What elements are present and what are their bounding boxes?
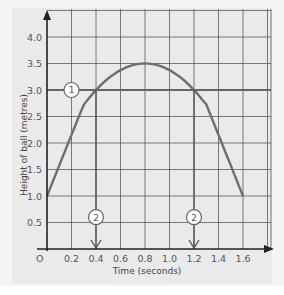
- y-tick-label: 3.0: [27, 85, 42, 96]
- step-marker-label: 2: [93, 213, 99, 223]
- x-tick-label: 1.2: [186, 253, 201, 264]
- y-tick-label: 0.5: [27, 217, 42, 228]
- y-tick-label: 1.0: [27, 191, 42, 202]
- step-marker-label: 1: [69, 85, 75, 95]
- x-axis-arrow-icon: [264, 245, 274, 253]
- y-tick-label: 3.5: [27, 58, 42, 69]
- x-tick-label: 1.0: [162, 253, 177, 264]
- y-tick-label: 2.0: [27, 138, 42, 149]
- x-axis-label: Time (seconds): [112, 266, 182, 276]
- y-tick-label: 1.5: [27, 164, 42, 175]
- x-tick-label: 0.2: [64, 253, 79, 264]
- x-tick-label: 1.4: [211, 253, 226, 264]
- grid-lines: [47, 9, 271, 249]
- height-time-chart: 0.20.40.60.81.01.21.41.60.51.01.52.02.53…: [0, 0, 284, 295]
- tick-labels: 0.20.40.60.81.01.21.41.60.51.01.52.02.53…: [27, 32, 251, 265]
- y-tick-label: 4.0: [27, 32, 42, 43]
- y-axis-arrow-icon: [43, 10, 51, 20]
- x-tick-label: 0.4: [88, 253, 103, 264]
- x-tick-label: 0.6: [113, 253, 128, 264]
- x-tick-label: 1.6: [235, 253, 250, 264]
- data-series: [47, 64, 271, 197]
- y-axis-label: Height of ball (metres): [19, 94, 29, 196]
- annotations: 122: [64, 83, 202, 249]
- x-tick-label: 0.8: [137, 253, 152, 264]
- step-marker-label: 2: [191, 213, 197, 223]
- y-tick-label: 2.5: [27, 111, 42, 122]
- origin-label: O: [36, 253, 43, 264]
